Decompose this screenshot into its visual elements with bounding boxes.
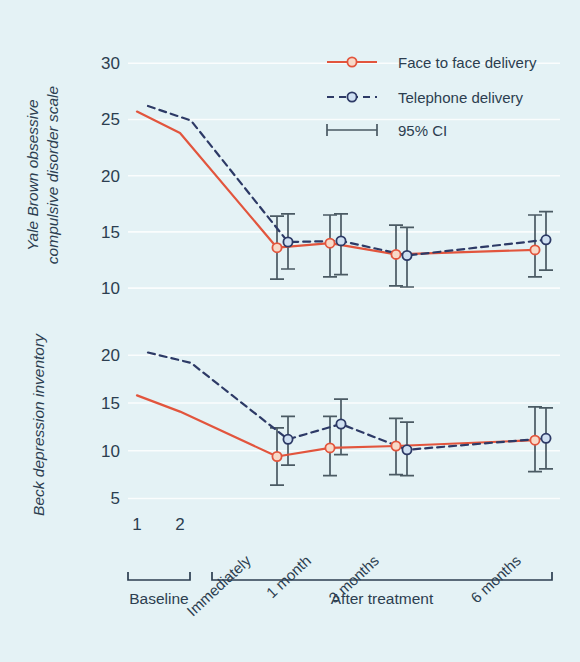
y-axis-title: Beck depression inventory bbox=[30, 333, 47, 516]
group-label-after-treatment: After treatment bbox=[331, 590, 434, 607]
legend-marker-telephone bbox=[347, 92, 356, 101]
data-point-marker bbox=[530, 436, 539, 445]
x-tick-label-baseline: 1 bbox=[132, 515, 141, 534]
data-point-marker bbox=[541, 434, 550, 443]
y-tick-label: 20 bbox=[101, 167, 120, 186]
data-point-marker bbox=[391, 250, 400, 259]
data-point-marker bbox=[283, 237, 292, 246]
y-tick-label: 10 bbox=[101, 442, 120, 461]
legend-marker-face-to-face bbox=[347, 57, 356, 66]
y-tick-label: 15 bbox=[101, 394, 120, 413]
y-tick-label: 10 bbox=[101, 279, 120, 298]
y-tick-label: 30 bbox=[101, 54, 120, 73]
data-point-marker bbox=[402, 445, 411, 454]
data-point-marker bbox=[283, 435, 292, 444]
data-point-marker bbox=[336, 236, 345, 245]
data-point-marker bbox=[530, 245, 539, 254]
data-point-marker bbox=[325, 443, 334, 452]
legend-label-telephone: Telephone delivery bbox=[398, 89, 524, 106]
data-point-marker bbox=[541, 235, 550, 244]
y-tick-label: 25 bbox=[101, 110, 120, 129]
group-label-baseline: Baseline bbox=[129, 590, 188, 607]
data-point-marker bbox=[325, 239, 334, 248]
data-point-marker bbox=[272, 243, 281, 252]
data-point-marker bbox=[272, 452, 281, 461]
y-tick-label: 20 bbox=[101, 346, 120, 365]
data-point-marker bbox=[391, 441, 400, 450]
legend-label-95ci: 95% CI bbox=[398, 122, 447, 139]
data-point-marker bbox=[336, 419, 345, 428]
data-point-marker bbox=[402, 251, 411, 260]
y-tick-label: 15 bbox=[101, 223, 120, 242]
y-axis-title: Yale Brown obsessive bbox=[24, 99, 41, 251]
y-axis-title: compulsive disorder scale bbox=[44, 85, 61, 264]
legend-label-face-to-face: Face to face delivery bbox=[398, 54, 537, 71]
y-tick-label: 5 bbox=[111, 489, 120, 508]
x-tick-label-baseline: 2 bbox=[175, 515, 184, 534]
figure-root: 1015202530Yale Brown obsessivecompulsive… bbox=[0, 0, 580, 662]
